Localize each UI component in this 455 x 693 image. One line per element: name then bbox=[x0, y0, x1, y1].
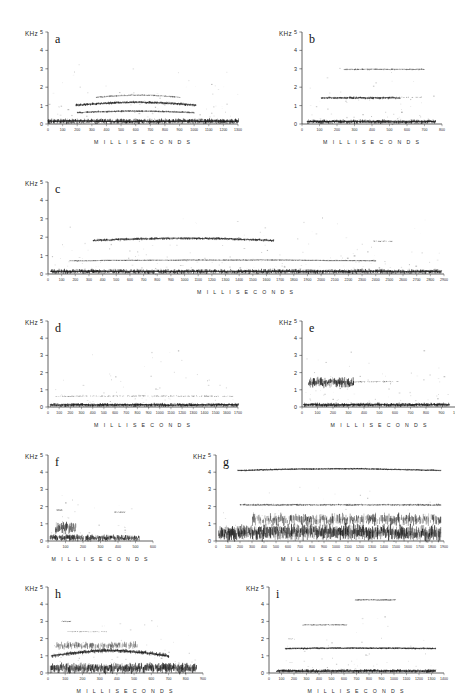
y-tick-label-d-2: 2 bbox=[40, 370, 43, 376]
y-tick-label-f-1: 1 bbox=[40, 521, 43, 527]
x-tick-label-d-1400: 1400 bbox=[201, 411, 209, 415]
x-tick-label-f-400: 400 bbox=[115, 545, 121, 549]
y-tick-label-c-3: 3 bbox=[40, 216, 43, 222]
x-tick-label-c-1400: 1400 bbox=[235, 278, 243, 282]
y-tick-label-i-4: 4 bbox=[261, 601, 264, 607]
x-tick-label-g-700: 700 bbox=[297, 545, 303, 549]
x-tick-label-h-200: 200 bbox=[80, 677, 86, 681]
y-axis-unit-label-h: KHz bbox=[25, 585, 38, 592]
x-tick-label-d-700: 700 bbox=[123, 411, 129, 415]
x-tick-label-i-1200: 1200 bbox=[415, 677, 423, 681]
x-tick-label-g-800: 800 bbox=[309, 545, 315, 549]
x-tick-label-b-300: 300 bbox=[352, 128, 358, 132]
x-axis-title-g: M I L L I S E C O N D S bbox=[281, 556, 379, 562]
panel-letter-b: b bbox=[309, 32, 315, 46]
x-tick-label-f-300: 300 bbox=[98, 545, 104, 549]
x-tick-label-g-1500: 1500 bbox=[392, 545, 400, 549]
y-tick-label-b-0: 0 bbox=[294, 121, 297, 127]
x-axis-title-f: M I L L I S E C O N D S bbox=[52, 556, 150, 562]
x-tick-label-i-800: 800 bbox=[366, 677, 372, 681]
x-tick-label-g-300: 300 bbox=[249, 545, 255, 549]
spectrogram-trace-f bbox=[50, 495, 140, 542]
x-tick-label-i-500: 500 bbox=[329, 677, 335, 681]
x-tick-label-i-100: 100 bbox=[279, 677, 285, 681]
x-tick-label-f-100: 100 bbox=[63, 545, 69, 549]
x-tick-label-h-600: 600 bbox=[148, 677, 154, 681]
x-tick-label-h-800: 800 bbox=[183, 677, 189, 681]
y-tick-label-e-2: 2 bbox=[294, 370, 297, 376]
x-tick-label-g-0: 0 bbox=[215, 545, 217, 549]
x-tick-label-c-300: 300 bbox=[86, 278, 92, 282]
x-tick-label-a-600: 600 bbox=[133, 128, 139, 132]
x-tick-label-d-800: 800 bbox=[134, 411, 140, 415]
x-tick-label-a-100: 100 bbox=[60, 128, 66, 132]
y-axis-unit-label-g: KHz bbox=[193, 453, 206, 460]
spectrogram-panel-g: KHzg012345010020030040050060070080090010… bbox=[190, 441, 452, 567]
x-tick-label-b-700: 700 bbox=[422, 128, 428, 132]
x-tick-label-a-1200: 1200 bbox=[219, 128, 227, 132]
x-tick-label-c-2900: 2900 bbox=[440, 278, 448, 282]
x-tick-label-d-1500: 1500 bbox=[212, 411, 220, 415]
x-tick-label-b-500: 500 bbox=[387, 128, 393, 132]
x-tick-label-c-1900: 1900 bbox=[304, 278, 312, 282]
x-tick-label-a-700: 700 bbox=[147, 128, 153, 132]
x-tick-label-e-700: 700 bbox=[408, 411, 414, 415]
x-tick-label-g-400: 400 bbox=[261, 545, 267, 549]
y-tick-label-e-0: 0 bbox=[294, 404, 297, 410]
x-tick-label-b-100: 100 bbox=[317, 128, 323, 132]
x-tick-label-a-0: 0 bbox=[47, 128, 49, 132]
y-tick-label-a-4: 4 bbox=[40, 47, 43, 53]
x-tick-label-i-600: 600 bbox=[341, 677, 347, 681]
y-tick-label-a-2: 2 bbox=[40, 84, 43, 90]
x-tick-label-a-900: 900 bbox=[177, 128, 183, 132]
y-axis-unit-label-f: KHz bbox=[25, 453, 38, 460]
y-tick-label-i-2: 2 bbox=[261, 636, 264, 642]
x-tick-label-h-900: 900 bbox=[200, 677, 206, 681]
y-tick-label-a-1: 1 bbox=[40, 103, 43, 109]
y-tick-label-g-3: 3 bbox=[208, 486, 211, 492]
x-axis-title-a: M I L L I S E C O N D S bbox=[94, 139, 192, 145]
x-tick-label-b-200: 200 bbox=[334, 128, 340, 132]
y-tick-label-g-1: 1 bbox=[208, 521, 211, 527]
x-tick-label-e-100: 100 bbox=[315, 411, 321, 415]
x-tick-label-b-400: 400 bbox=[369, 128, 375, 132]
x-tick-label-d-100: 100 bbox=[56, 411, 62, 415]
y-tick-label-c-0: 0 bbox=[40, 271, 43, 277]
y-tick-label-h-5: 5 bbox=[40, 584, 43, 590]
x-tick-label-a-1300: 1300 bbox=[234, 128, 242, 132]
x-tick-label-d-1300: 1300 bbox=[189, 411, 197, 415]
x-tick-label-i-200: 200 bbox=[291, 677, 297, 681]
x-tick-label-i-1000: 1000 bbox=[390, 677, 398, 681]
y-tick-label-i-3: 3 bbox=[261, 618, 264, 624]
x-tick-label-c-1200: 1200 bbox=[208, 278, 216, 282]
y-tick-label-d-4: 4 bbox=[40, 335, 43, 341]
x-tick-label-g-1300: 1300 bbox=[368, 545, 376, 549]
x-tick-label-g-600: 600 bbox=[285, 545, 291, 549]
y-tick-label-i-0: 0 bbox=[261, 670, 264, 676]
y-tick-label-h-4: 4 bbox=[40, 601, 43, 607]
x-tick-label-c-800: 800 bbox=[154, 278, 160, 282]
x-tick-label-i-900: 900 bbox=[379, 677, 385, 681]
x-tick-label-c-2100: 2100 bbox=[331, 278, 339, 282]
y-tick-label-d-5: 5 bbox=[40, 318, 43, 324]
x-tick-label-e-900: 900 bbox=[439, 411, 445, 415]
x-tick-label-f-0: 0 bbox=[47, 545, 49, 549]
x-tick-label-f-600: 600 bbox=[150, 545, 156, 549]
x-tick-label-d-1000: 1000 bbox=[156, 411, 164, 415]
spectrogram-panel-e: KHze012345010020030040050060070080090010… bbox=[276, 307, 455, 433]
spectrogram-trace-g bbox=[218, 468, 441, 543]
spectrogram-trace-i bbox=[277, 599, 437, 674]
panel-letter-i: i bbox=[276, 587, 280, 601]
x-tick-label-g-500: 500 bbox=[273, 545, 279, 549]
x-tick-label-g-1200: 1200 bbox=[356, 545, 364, 549]
y-tick-label-f-5: 5 bbox=[40, 452, 43, 458]
y-tick-label-h-3: 3 bbox=[40, 618, 43, 624]
y-tick-label-a-0: 0 bbox=[40, 121, 43, 127]
y-tick-label-i-1: 1 bbox=[261, 653, 264, 659]
x-tick-label-c-2000: 2000 bbox=[317, 278, 325, 282]
x-tick-label-e-200: 200 bbox=[330, 411, 336, 415]
x-tick-label-g-1000: 1000 bbox=[332, 545, 340, 549]
panel-letter-f: f bbox=[55, 455, 59, 469]
x-tick-label-d-1600: 1600 bbox=[223, 411, 231, 415]
x-tick-label-g-1800: 1800 bbox=[428, 545, 436, 549]
